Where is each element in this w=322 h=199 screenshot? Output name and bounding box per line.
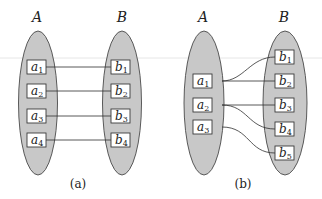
element-b3: b3 — [275, 98, 294, 113]
element-subscript: 1 — [123, 66, 128, 75]
element-subscript: 5 — [287, 152, 292, 161]
element-a4: a4 — [27, 133, 46, 148]
element-a2: a2 — [193, 98, 212, 113]
element-symbol: a — [31, 84, 38, 98]
element-symbol: a — [31, 60, 38, 74]
element-subscript: 3 — [204, 126, 209, 135]
set-a-ellipse — [19, 31, 58, 175]
element-subscript: 1 — [287, 56, 292, 65]
element-symbol: b — [115, 84, 123, 98]
element-symbol: b — [279, 98, 287, 112]
element-symbol: b — [279, 50, 287, 64]
mapping-diagram: A B a1 a2 a3 a4 b1 — [0, 0, 322, 199]
element-subscript: 2 — [204, 104, 209, 113]
element-subscript: 1 — [204, 80, 209, 89]
element-subscript: 4 — [123, 139, 128, 148]
element-symbol: a — [31, 109, 38, 123]
element-b4: b4 — [275, 122, 294, 137]
element-symbol: b — [279, 74, 287, 88]
element-a3: a3 — [193, 120, 212, 135]
panel-a: A B a1 a2 a3 a4 b1 — [19, 9, 142, 191]
element-a1: a1 — [27, 60, 46, 75]
element-b3: b3 — [111, 109, 130, 124]
set-a-label: A — [30, 9, 42, 25]
element-subscript: 3 — [38, 115, 43, 124]
element-symbol: a — [197, 98, 204, 112]
element-symbol: a — [197, 74, 204, 88]
element-subscript: 2 — [287, 80, 292, 89]
element-b2: b2 — [275, 74, 294, 89]
element-a2: a2 — [27, 84, 46, 99]
element-symbol: b — [279, 122, 287, 136]
element-subscript: 4 — [38, 139, 43, 148]
element-symbol: b — [115, 109, 123, 123]
set-b-ellipse — [103, 31, 142, 175]
set-a-label: A — [196, 9, 208, 25]
panel-caption: (a) — [70, 177, 87, 191]
panel-caption: (b) — [234, 177, 251, 191]
element-b5: b5 — [275, 146, 294, 161]
element-symbol: a — [197, 120, 204, 134]
element-subscript: 3 — [287, 104, 292, 113]
element-subscript: 4 — [287, 128, 292, 137]
element-subscript: 2 — [123, 90, 128, 99]
element-subscript: 2 — [38, 90, 43, 99]
element-b4: b4 — [111, 133, 130, 148]
panel-b: A B a1 a2 a3 b1 — [184, 9, 307, 191]
element-a3: a3 — [27, 109, 46, 124]
element-b2: b2 — [111, 84, 130, 99]
element-symbol: b — [115, 133, 123, 147]
element-symbol: b — [115, 60, 123, 74]
set-b-label: B — [116, 9, 127, 25]
element-subscript: 3 — [123, 115, 128, 124]
element-a1: a1 — [193, 74, 212, 89]
element-subscript: 1 — [38, 66, 43, 75]
element-symbol: b — [279, 146, 287, 160]
element-symbol: a — [31, 133, 38, 147]
element-b1: b1 — [111, 60, 130, 75]
set-b-label: B — [278, 9, 289, 25]
element-b1: b1 — [275, 50, 294, 65]
